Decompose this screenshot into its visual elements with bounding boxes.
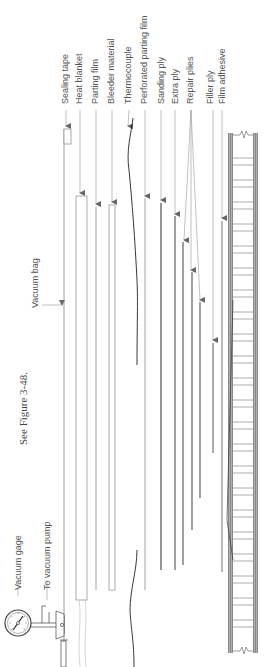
label-repair-plies: Repair plies [185, 56, 195, 104]
heat-blanket [76, 196, 87, 600]
vacuum-gage-icon [5, 610, 31, 636]
bleeder-material [109, 205, 115, 590]
label-thermocouple: Thermocouple [123, 46, 133, 104]
label-bleeder-material: Bleeder material [106, 38, 116, 104]
figure-caption: See Figure 3-48. [17, 372, 29, 445]
label-extra-ply: Extra ply [170, 68, 180, 104]
label-to-vacuum-pump: To vacuum pump [42, 521, 52, 590]
sealing-tape [64, 129, 71, 144]
thermocouple [128, 118, 137, 667]
label-heat-blanket: Heat blanket [74, 53, 84, 104]
label-film-adhesive: Film adhesive [217, 48, 227, 104]
label-filler-ply: Filler ply [205, 70, 215, 104]
layer-labels: Sealing tape Heat blanket Parting film B… [13, 15, 227, 590]
label-perforated-parting-film: Perforated parting film [139, 15, 149, 104]
label-parting-film: Parting film [90, 59, 100, 104]
label-vacuum-bag: Vacuum bag [30, 258, 40, 308]
label-sanding-ply: Sanding ply [156, 56, 166, 104]
vacuum-piping [31, 606, 68, 667]
label-sealing-tape: Sealing tape [60, 54, 70, 104]
vacuum-bag-repair-diagram: See Figure 3-48. Sealing tape Heat blank… [0, 0, 265, 667]
honeycomb-core [227, 131, 258, 654]
repair-plies [183, 242, 200, 565]
